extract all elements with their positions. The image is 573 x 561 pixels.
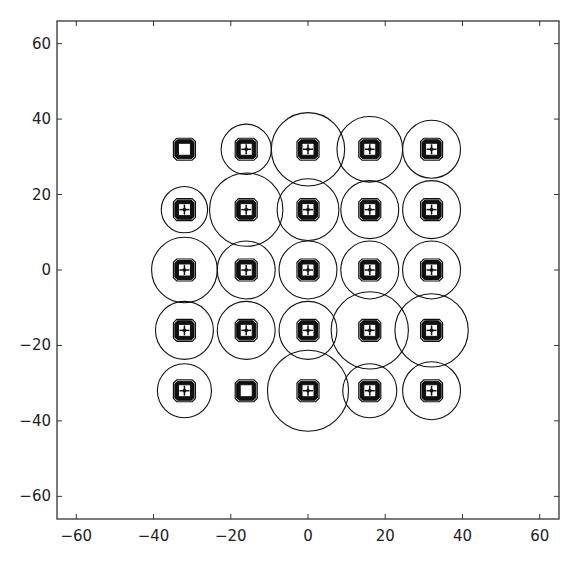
pad-marker [221, 124, 271, 174]
pad-marker [279, 241, 337, 299]
pad-marker [337, 116, 403, 182]
pad-marker [267, 350, 348, 431]
pad-marker [403, 362, 461, 420]
pad-core [178, 143, 190, 155]
y-tick-label: 60 [32, 35, 51, 53]
y-tick-label: 40 [32, 110, 51, 128]
pad-marker [343, 364, 397, 418]
pad-marker [331, 292, 408, 369]
pad-marker [152, 237, 218, 303]
pad-marker [341, 181, 399, 239]
y-tick-label: 20 [32, 186, 51, 204]
pad-marker [210, 173, 283, 246]
y-tick-label: 0 [41, 261, 51, 279]
x-tick-label: 60 [530, 527, 549, 545]
pad-marker [157, 364, 211, 418]
x-tick-label: 20 [376, 527, 395, 545]
x-tick-label: −20 [215, 527, 247, 545]
pad-marker [403, 241, 461, 299]
x-tick-label: −60 [60, 527, 92, 545]
pad-marker [341, 241, 399, 299]
pad-marker [403, 120, 461, 178]
y-tick-label: −20 [19, 336, 51, 354]
pad-marker [217, 241, 275, 299]
pad-core [240, 385, 252, 397]
axis-ticks: −60−40−200204060−60−40−200204060 [19, 21, 559, 545]
y-tick-label: −60 [19, 487, 51, 505]
chart-canvas: −60−40−200204060−60−40−200204060 [0, 0, 573, 561]
pad-marker [217, 301, 275, 359]
pad-marker [395, 294, 468, 367]
pad-marker [403, 181, 461, 239]
x-tick-label: −40 [138, 527, 170, 545]
x-tick-label: 40 [453, 527, 472, 545]
pad-marker [161, 186, 207, 232]
y-tick-label: −40 [19, 412, 51, 430]
pad-marker [277, 179, 339, 241]
pad-marker [271, 113, 344, 186]
x-tick-label: 0 [303, 527, 313, 545]
plot-area [152, 113, 469, 432]
pad-marker [235, 380, 257, 402]
pad-marker [155, 301, 213, 359]
pad-marker [173, 138, 195, 160]
